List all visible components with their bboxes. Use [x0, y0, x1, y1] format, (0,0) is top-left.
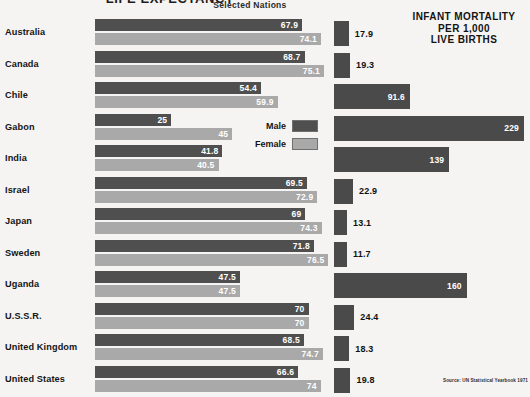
bar-infant-mortality: 229 — [334, 116, 524, 141]
bar-infant-mortality: 17.9 — [334, 21, 349, 46]
legend-label-female: Female — [240, 139, 286, 149]
chart-row: Japan6974.313.1 — [0, 207, 530, 240]
country-label: Israel — [5, 185, 93, 195]
bar-female: 47.5 — [95, 285, 240, 297]
infant-mortality-bar-wrap: 139 — [334, 147, 449, 174]
life-expectancy-bars: 2545 — [95, 114, 232, 142]
life-expectancy-infographic: LIFE EXPECTANCY Selected Nations INFANT … — [0, 0, 530, 397]
life-expectancy-bars: 41.840.5 — [95, 145, 222, 173]
bar-male: 71.8 — [95, 240, 314, 252]
bar-female: 74.1 — [95, 33, 321, 45]
infant-mortality-bar-wrap: 229 — [334, 116, 524, 143]
life-expectancy-bars: 68.775.1 — [95, 51, 324, 79]
bar-female: 72.9 — [95, 191, 317, 203]
bar-value-female: 70 — [295, 318, 305, 328]
bar-value-infant-mortality: 11.7 — [353, 249, 371, 259]
bar-value-infant-mortality: 229 — [504, 123, 519, 133]
bar-infant-mortality: 91.6 — [334, 84, 410, 109]
bar-male: 47.5 — [95, 271, 240, 283]
bar-value-male: 66.6 — [277, 367, 294, 377]
bar-value-female: 74 — [307, 381, 317, 391]
legend-swatch-male — [292, 120, 318, 132]
bar-infant-mortality: 22.9 — [334, 179, 353, 204]
life-expectancy-bars: 69.572.9 — [95, 177, 317, 205]
infant-mortality-bar-wrap: 91.6 — [334, 84, 410, 111]
life-expectancy-bars: 66.674 — [95, 366, 321, 394]
bar-value-male: 68.7 — [283, 52, 300, 62]
bar-value-male: 47.5 — [219, 272, 236, 282]
bar-infant-mortality: 18.3 — [334, 336, 349, 361]
bar-female: 70 — [95, 317, 309, 329]
bar-female: 59.9 — [95, 96, 278, 108]
bar-value-male: 68.5 — [283, 335, 300, 345]
bar-value-infant-mortality: 24.4 — [360, 312, 378, 322]
chart-row: Uganda47.547.5160 — [0, 270, 530, 303]
bar-value-infant-mortality: 91.6 — [388, 92, 405, 102]
chart-row: Israel69.572.922.9 — [0, 176, 530, 209]
bar-value-infant-mortality: 160 — [447, 281, 462, 291]
bar-value-female: 74.3 — [300, 223, 317, 233]
country-label: United Kingdom — [5, 342, 93, 352]
country-label: Uganda — [5, 279, 93, 289]
legend-item-female: Female — [240, 137, 318, 151]
bar-infant-mortality: 160 — [334, 273, 467, 298]
chart-row: Australia67.974.117.9 — [0, 18, 530, 51]
country-label: Australia — [5, 27, 93, 37]
bar-value-male: 70 — [295, 304, 305, 314]
infant-mortality-bar-wrap: 160 — [334, 273, 467, 300]
bar-female: 74.3 — [95, 222, 322, 234]
legend-swatch-female — [292, 138, 318, 150]
country-label: United States — [5, 374, 93, 384]
bar-value-infant-mortality: 139 — [430, 155, 445, 165]
chart-row: Canada68.775.119.3 — [0, 50, 530, 83]
bar-value-male: 41.8 — [201, 146, 218, 156]
chart-row: Chile54.459.991.6 — [0, 81, 530, 114]
bar-value-female: 45 — [218, 129, 228, 139]
country-label: India — [5, 153, 93, 163]
life-expectancy-bars: 6974.3 — [95, 208, 322, 236]
infant-mortality-bar-wrap: 19.8 — [334, 368, 350, 395]
bar-male: 54.4 — [95, 82, 261, 94]
legend-item-male: Male — [240, 119, 318, 133]
bar-female: 75.1 — [95, 65, 324, 77]
bar-value-female: 59.9 — [256, 97, 273, 107]
infant-mortality-bar-wrap: 11.7 — [334, 242, 347, 269]
bar-value-female: 74.7 — [301, 349, 318, 359]
bar-female: 76.5 — [95, 254, 328, 266]
infant-mortality-bar-wrap: 18.3 — [334, 336, 349, 363]
bar-infant-mortality: 19.8 — [334, 368, 350, 393]
bar-infant-mortality: 11.7 — [334, 242, 347, 267]
bar-value-infant-mortality: 19.8 — [356, 375, 374, 385]
bar-infant-mortality: 24.4 — [334, 305, 354, 330]
bar-value-male: 67.9 — [281, 20, 298, 30]
country-label: Japan — [5, 216, 93, 226]
country-label: U.S.S.R. — [5, 311, 93, 321]
legend: Male Female — [240, 119, 318, 155]
bar-value-male: 69.5 — [286, 178, 303, 188]
bar-male: 67.9 — [95, 19, 302, 31]
life-expectancy-bars: 71.876.5 — [95, 240, 328, 268]
legend-label-male: Male — [240, 121, 286, 131]
country-label: Sweden — [5, 248, 93, 258]
bar-value-male: 54.4 — [240, 83, 257, 93]
bar-female: 45 — [95, 128, 232, 140]
bar-male: 69.5 — [95, 177, 307, 189]
infant-mortality-bar-wrap: 22.9 — [334, 179, 353, 206]
bar-male: 69 — [95, 208, 305, 220]
country-label: Chile — [5, 90, 93, 100]
bar-female: 74.7 — [95, 348, 323, 360]
bar-male: 68.5 — [95, 334, 304, 346]
infant-mortality-bar-wrap: 13.1 — [334, 210, 347, 237]
bar-value-infant-mortality: 18.3 — [355, 344, 373, 354]
page-subtitle: Selected Nations — [160, 0, 340, 10]
bar-value-female: 75.1 — [303, 66, 320, 76]
bar-male: 70 — [95, 303, 309, 315]
life-expectancy-bars: 7070 — [95, 303, 309, 331]
bar-infant-mortality: 139 — [334, 147, 449, 172]
bar-value-female: 76.5 — [307, 255, 324, 265]
bar-infant-mortality: 19.3 — [334, 53, 350, 78]
bar-infant-mortality: 13.1 — [334, 210, 347, 235]
bar-value-male: 25 — [157, 115, 167, 125]
bar-value-female: 72.9 — [296, 192, 313, 202]
life-expectancy-bars: 54.459.9 — [95, 82, 278, 110]
